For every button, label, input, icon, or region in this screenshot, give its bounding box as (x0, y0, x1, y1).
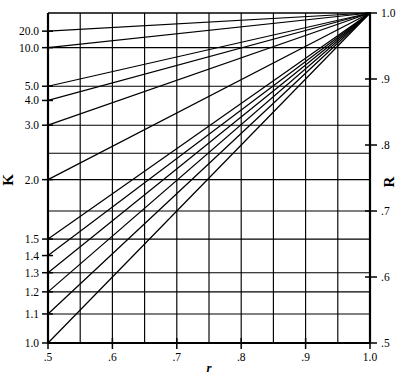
y-axis-tick-label: 1.2 (25, 286, 40, 298)
y2-axis-tick-label: .8 (381, 139, 390, 151)
x-axis-tick-label: .6 (108, 351, 117, 363)
y-axis-tick-label: 20.0 (19, 25, 39, 37)
x-axis-tick-label: 1.0 (363, 351, 378, 363)
y-axis-tick-label: 2.0 (25, 174, 40, 186)
y-axis-tick-label: 1.5 (25, 233, 40, 245)
x-axis-tick-label: .9 (301, 351, 310, 363)
y-axis-tick-label: 1.1 (25, 308, 40, 320)
y-axis-title: K (0, 174, 16, 186)
y2-axis-tick-label: 1.0 (381, 7, 396, 19)
y2-axis-tick-label: .9 (381, 73, 390, 85)
y-axis-tick-label: 1.3 (25, 267, 40, 279)
x-axis-tick-label: .7 (172, 351, 181, 363)
y-axis-tick-label: 3.0 (25, 119, 40, 131)
chart-background (0, 0, 408, 379)
y2-axis-tick-label: .5 (381, 337, 390, 349)
y2-axis-tick-label: .6 (381, 271, 390, 283)
y-axis-tick-label: 5.0 (25, 80, 40, 92)
y2-axis-title: R (381, 176, 397, 187)
chart-container: 20.010.05.04.03.02.01.51.41.31.21.11.01.… (0, 0, 408, 379)
y-axis-tick-label: 10.0 (19, 42, 39, 54)
x-axis-tick-label: .5 (44, 351, 53, 363)
y2-axis-tick-label: .7 (381, 205, 390, 217)
y-axis-tick-label: 1.0 (25, 337, 40, 349)
x-axis-tick-label: .8 (237, 351, 246, 363)
y-axis-tick-label: 1.4 (25, 250, 40, 262)
y-axis-tick-label: 4.0 (25, 94, 40, 106)
nomogram-chart: 20.010.05.04.03.02.01.51.41.31.21.11.01.… (0, 0, 408, 379)
